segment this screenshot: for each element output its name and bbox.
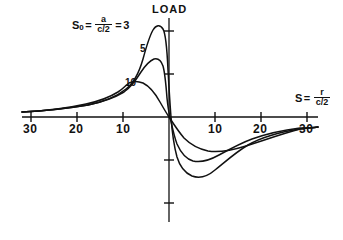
x-tick-label-20: 20 bbox=[253, 122, 267, 136]
curve-label-5: 5 bbox=[140, 43, 146, 54]
s0-symbol: S bbox=[72, 19, 79, 31]
s-symbol: S bbox=[295, 92, 302, 104]
x-axis-title: S = r c/2 bbox=[295, 88, 332, 107]
x-tick-label--10: 10 bbox=[116, 122, 130, 136]
curve-s0-3 bbox=[22, 26, 318, 177]
fraction-r-over-c2: r c/2 bbox=[314, 88, 331, 107]
curves-group bbox=[22, 26, 318, 177]
parameter-definition-label: S0 = a c/2 = 3 bbox=[72, 15, 129, 34]
s0-value-3: 3 bbox=[123, 19, 129, 31]
figure-dispersion-curves: LOAD S0 = a c/2 = 3 S = r c/2 5 10 30 20… bbox=[0, 0, 343, 240]
x-tick-label-10: 10 bbox=[208, 122, 222, 136]
s0-subscript: 0 bbox=[79, 23, 83, 32]
x-tick-label--20: 20 bbox=[69, 122, 83, 136]
equals-sign-2: = bbox=[115, 19, 121, 31]
chart-canvas bbox=[0, 0, 343, 240]
fraction-numerator-a: a bbox=[99, 15, 108, 24]
equals-sign-1: = bbox=[85, 19, 91, 31]
fraction-denominator-c2: c/2 bbox=[95, 24, 112, 34]
curve-label-10: 10 bbox=[125, 77, 136, 88]
y-axis-title: LOAD bbox=[152, 3, 187, 15]
fraction-denominator-c2-x: c/2 bbox=[314, 97, 331, 107]
fraction-a-over-c2: a c/2 bbox=[95, 15, 112, 34]
x-tick-label--30: 30 bbox=[23, 122, 37, 136]
x-tick-label-30: 30 bbox=[299, 122, 313, 136]
equals-sign-3: = bbox=[304, 92, 310, 104]
fraction-numerator-r: r bbox=[318, 88, 326, 97]
